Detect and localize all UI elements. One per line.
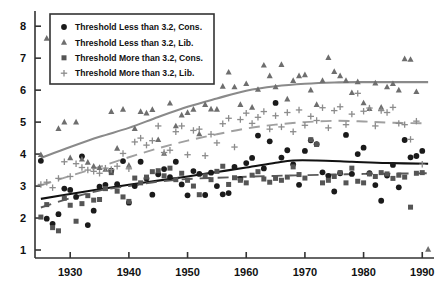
data-point-circle: [243, 160, 249, 166]
data-point-circle: [414, 153, 420, 159]
data-point-circle: [355, 151, 361, 157]
data-point-square: [250, 173, 255, 178]
data-point-square: [361, 180, 366, 185]
chart-root: 12345678 1930194019501960197019801990 Th…: [0, 0, 437, 288]
data-point-circle: [372, 182, 378, 188]
data-point-circle: [91, 208, 97, 214]
data-point-square: [85, 193, 90, 198]
data-point-square: [244, 180, 249, 185]
data-point-square: [126, 199, 131, 204]
data-point-square: [308, 137, 313, 142]
data-point-circle: [378, 198, 384, 204]
data-point-circle: [185, 192, 191, 198]
data-point-circle: [343, 132, 349, 138]
data-point-circle: [179, 182, 185, 188]
data-point-square: [203, 173, 208, 178]
y-axis-tick-label: 2: [20, 212, 26, 224]
y-axis-tick-label: 5: [20, 116, 26, 128]
data-point-circle: [232, 164, 238, 170]
data-point-circle: [261, 166, 267, 172]
data-point-square: [173, 177, 178, 182]
y-axis-tick-label: 7: [20, 52, 26, 64]
data-point-circle: [38, 158, 44, 164]
data-point-circle: [161, 166, 167, 172]
data-point-circle: [220, 191, 226, 197]
data-point-square: [238, 178, 243, 183]
data-point-circle: [402, 137, 408, 143]
data-point-circle: [44, 216, 50, 222]
y-axis-tick-label: 3: [20, 180, 26, 192]
data-point-square: [38, 215, 43, 220]
y-axis-tick-label: 1: [20, 244, 26, 256]
data-point-square: [74, 219, 79, 224]
data-point-square: [209, 177, 214, 182]
y-axis-tick-label: 8: [20, 20, 26, 32]
data-point-square: [103, 186, 108, 191]
data-point-square: [396, 173, 401, 178]
data-point-square: [302, 176, 307, 181]
legend-item-label: Threshold More than 3.2, Cons.: [75, 53, 203, 63]
scatter-plot: 12345678 1930194019501960197019801990 Th…: [0, 0, 437, 288]
data-point-circle: [208, 170, 214, 176]
data-point-square: [267, 180, 272, 185]
data-point-circle: [173, 159, 179, 165]
x-axis-tick-label: 1940: [117, 266, 141, 278]
data-point-square: [255, 169, 260, 174]
x-axis-tick-label: 1950: [175, 266, 199, 278]
data-point-circle: [396, 184, 402, 190]
data-point-circle: [114, 181, 120, 187]
data-point-square: [150, 169, 155, 174]
data-point-square: [214, 169, 219, 174]
x-axis-tick-label: 1980: [351, 266, 375, 278]
data-point-square: [367, 171, 372, 176]
data-point-square: [379, 170, 384, 175]
data-point-square: [62, 196, 67, 201]
data-point-circle: [149, 192, 155, 198]
x-axis-tick-label: 1930: [58, 266, 82, 278]
data-point-circle: [361, 145, 367, 151]
data-point-square: [50, 225, 55, 230]
data-point-square: [343, 180, 348, 185]
data-point-circle: [331, 189, 337, 195]
data-point-square: [191, 184, 196, 189]
data-point-square: [332, 174, 337, 179]
legend: Threshold Less than 3.2, Cons.Threshold …: [50, 14, 214, 84]
data-point-square: [414, 171, 419, 176]
data-point-circle: [196, 171, 202, 177]
data-point-circle: [408, 154, 414, 160]
data-point-circle: [296, 182, 302, 188]
data-point-circle: [349, 171, 355, 177]
data-point-square: [349, 166, 354, 171]
data-point-circle: [191, 168, 197, 174]
data-point-circle: [167, 174, 173, 180]
data-point-square: [232, 175, 237, 180]
data-point-circle: [267, 138, 273, 144]
data-point-square: [62, 55, 67, 60]
data-point-circle: [419, 148, 425, 154]
data-point-circle: [85, 222, 91, 228]
data-point-circle: [202, 192, 208, 198]
data-point-square: [279, 178, 284, 183]
data-point-square: [167, 166, 172, 171]
data-point-circle: [255, 133, 261, 139]
data-point-circle: [56, 211, 62, 217]
data-point-square: [420, 170, 425, 175]
data-point-square: [179, 171, 184, 176]
data-point-square: [138, 180, 143, 185]
data-point-circle: [61, 186, 67, 192]
y-axis-tick-label: 4: [20, 148, 27, 160]
data-point-circle: [132, 183, 138, 189]
data-point-circle: [138, 159, 144, 165]
data-point-circle: [390, 162, 396, 168]
data-point-square: [402, 175, 407, 180]
data-point-square: [261, 177, 266, 182]
data-point-circle: [273, 100, 279, 106]
data-point-square: [326, 178, 331, 183]
data-point-square: [220, 164, 225, 169]
data-point-square: [285, 175, 290, 180]
data-point-square: [56, 228, 61, 233]
data-point-square: [355, 179, 360, 184]
data-point-circle: [120, 158, 126, 164]
data-point-square: [297, 172, 302, 177]
data-point-square: [162, 173, 167, 178]
